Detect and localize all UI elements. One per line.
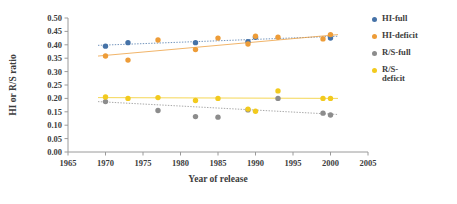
- legend-marker-icon: [372, 17, 377, 22]
- data-point: [245, 106, 250, 111]
- data-point: [275, 88, 280, 93]
- y-tick-label: 0.45: [47, 26, 62, 36]
- data-point: [328, 112, 333, 117]
- legend-item-label: HI-deficit: [382, 31, 418, 40]
- x-tick-label: 1970: [97, 158, 114, 168]
- legend-marker-icon: [372, 68, 377, 73]
- trendline-r-s-full: [98, 102, 338, 115]
- series-hi-deficit: [103, 32, 333, 63]
- data-point: [320, 96, 325, 101]
- x-tick-label: 1995: [285, 158, 302, 168]
- data-point: [193, 98, 198, 103]
- data-point: [215, 35, 220, 40]
- data-point: [103, 53, 108, 58]
- legend-item[interactable]: HI-deficit: [372, 31, 457, 40]
- data-point: [320, 110, 325, 115]
- legend-item[interactable]: R/S- deficit: [372, 65, 457, 83]
- data-point: [245, 41, 250, 46]
- x-tick-label: 2000: [322, 158, 339, 168]
- y-tick-label: 0.15: [47, 107, 62, 117]
- data-point: [328, 96, 333, 101]
- chart-container: 0.000.050.100.150.200.250.300.350.400.45…: [0, 0, 457, 204]
- x-tick-label: 1990: [247, 158, 264, 168]
- data-point: [193, 47, 198, 52]
- data-point: [125, 40, 130, 45]
- y-tick-label: 0.05: [47, 134, 62, 144]
- data-point: [215, 96, 220, 101]
- y-tick-label: 0.50: [47, 13, 62, 23]
- legend-marker-icon: [372, 51, 377, 56]
- data-point: [125, 57, 130, 62]
- data-point: [103, 94, 108, 99]
- data-point: [253, 109, 258, 114]
- data-point: [253, 34, 258, 39]
- x-tick-label: 1975: [135, 158, 152, 168]
- data-point: [193, 40, 198, 45]
- y-tick-label: 0.25: [47, 80, 62, 90]
- data-point: [155, 95, 160, 100]
- x-tick-label: 1980: [172, 158, 189, 168]
- legend-item-label: R/S-full: [382, 48, 411, 57]
- data-point: [193, 114, 198, 119]
- data-point: [215, 114, 220, 119]
- x-tick-label: 1965: [60, 158, 77, 168]
- legend-marker-icon: [372, 34, 377, 39]
- data-point: [275, 35, 280, 40]
- data-point: [125, 96, 130, 101]
- data-point: [328, 32, 333, 37]
- x-axis-title: Year of release: [188, 174, 247, 184]
- y-axis-title: HI or R/S ratio: [8, 54, 18, 116]
- legend-item[interactable]: R/S-full: [372, 48, 457, 57]
- chart-legend: HI-fullHI-deficitR/S-fullR/S- deficit: [372, 14, 457, 91]
- data-point: [320, 36, 325, 41]
- y-tick-label: 0.40: [47, 40, 62, 50]
- y-tick-label: 0.20: [47, 93, 62, 103]
- data-point: [155, 108, 160, 113]
- legend-item[interactable]: HI-full: [372, 14, 457, 23]
- legend-item-label: HI-full: [382, 14, 407, 23]
- series-r-s-deficit: [103, 88, 333, 114]
- x-tick-label: 1985: [210, 158, 227, 168]
- data-point: [155, 37, 160, 42]
- data-point: [275, 96, 280, 101]
- y-tick-label: 0.35: [47, 53, 62, 63]
- x-tick-label: 2005: [360, 158, 377, 168]
- y-tick-label: 0.30: [47, 67, 62, 77]
- legend-item-label: R/S- deficit: [382, 65, 405, 83]
- data-point: [103, 43, 108, 48]
- y-tick-label: 0.00: [47, 147, 62, 157]
- y-tick-label: 0.10: [47, 120, 62, 130]
